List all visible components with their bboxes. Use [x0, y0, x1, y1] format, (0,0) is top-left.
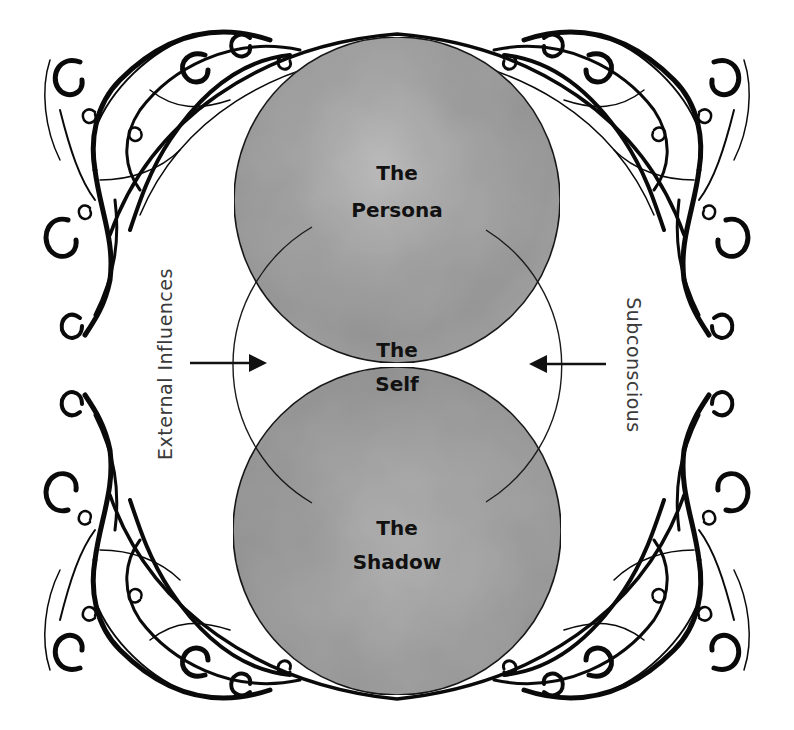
- shadow-label-line1: The: [376, 516, 417, 540]
- arrow-external-influences: [190, 354, 267, 372]
- subconscious-label: Subconscious: [623, 297, 645, 432]
- psyche-diagram: The Persona The Self The Shadow External…: [0, 0, 794, 730]
- shadow-label-line2: Shadow: [353, 550, 442, 574]
- self-label-line1: The: [376, 338, 417, 362]
- external-influences-label: External Influences: [154, 268, 176, 460]
- arrow-subconscious: [529, 355, 606, 373]
- persona-label-line1: The: [376, 161, 417, 185]
- self-label-line2: Self: [375, 372, 419, 396]
- persona-label-line2: Persona: [351, 198, 442, 222]
